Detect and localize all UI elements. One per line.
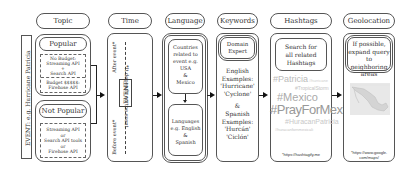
domain-expert-box: Domain Expert — [220, 37, 255, 59]
header-topic: Topic — [36, 13, 90, 29]
english-line: English — [217, 67, 258, 75]
popular-options: No Budget: Streaming API + Search API Bu… — [40, 54, 86, 93]
arrow-right-icon — [100, 92, 105, 98]
languages-line: Languages — [169, 118, 202, 125]
search-line: Hashtags — [276, 59, 326, 67]
languages-box: Languages e.g. English & Spanish — [168, 104, 203, 156]
popular-label: Popular — [39, 37, 87, 51]
search-api: Search API — [41, 71, 85, 76]
hashtagify-source: *https://hashtagify.me — [271, 152, 331, 159]
not-popular-options: Streaming API or Search API tools or Fir… — [40, 123, 86, 158]
arrow-right-icon — [263, 92, 268, 98]
countries-line: Countries — [169, 44, 202, 51]
not-popular-label: Not Popular — [39, 104, 87, 118]
popular-group: Popular No Budget: Streaming API + Searc… — [35, 34, 91, 96]
arrow-down-icon — [183, 100, 187, 103]
header-keywords: Keywords — [217, 13, 258, 29]
source-line: com/maps/ — [344, 155, 394, 160]
spanish-examples: Spanish Examples: 'Hurcán' 'Ciclón' — [217, 110, 258, 140]
before-event-label: Before event* — [111, 117, 118, 157]
english-line: 'Cyclone' — [217, 90, 258, 98]
spanish-line: Examples: — [217, 118, 258, 126]
not-popular-group: Not Popular Streaming API or Search API … — [35, 100, 91, 162]
time-footnote: *It depends on the event — [124, 56, 131, 136]
divider — [41, 77, 85, 78]
spanish-line: 'Hurcán' — [217, 125, 258, 133]
ampersand: & — [217, 102, 258, 110]
hashtag-patricia: #Patricia — [273, 74, 308, 84]
spanish-line: Spanish — [217, 110, 258, 118]
countries-line: event e.g. — [169, 58, 202, 65]
languages-line: Spanish — [169, 139, 202, 146]
countries-line: & — [169, 72, 202, 79]
time-box: EVENT After event* Before event* *It dep… — [107, 33, 153, 162]
google-maps-source: *https://www.google. com/maps/ — [344, 150, 394, 160]
event-label-box: EVENT: e.g. Hurricane Patricia — [21, 35, 32, 159]
after-event-label: After event* — [111, 37, 118, 77]
search-line: Search for — [276, 43, 326, 51]
countries-box: Countries related to event e.g. USA & Me… — [168, 39, 203, 94]
no-budget-option: No Budget: Streaming API + Search API — [41, 56, 85, 76]
english-line: Examples: — [217, 75, 258, 83]
note-line: expand query — [348, 48, 390, 56]
hashtag-cloud: #Patricia #hurricane #TropicalStorm #Mex… — [271, 74, 331, 134]
hashtag-huracan-small: #huracanfornmexicali — [275, 127, 313, 132]
expand-query-box: If possible, expand query to neighboring… — [347, 37, 391, 71]
languages-line: & — [169, 132, 202, 139]
map-image — [350, 83, 390, 115]
hashtag-huracanpatricia: #HuracanPatricia — [285, 118, 339, 125]
event-label: EVENT: e.g. Hurricane Patricia — [25, 36, 32, 160]
countries-line: USA — [169, 65, 202, 72]
streaming-api: Streaming API — [41, 127, 85, 133]
hashtag-hurricane: #hurricane — [309, 78, 328, 83]
language-box: Countries related to event e.g. USA & Me… — [164, 35, 206, 161]
budget-option: Budget $$$$$: Firehose API — [41, 80, 85, 90]
geolocation-box: If possible, expand query to neighboring… — [343, 33, 395, 162]
header-time: Time — [108, 13, 152, 29]
spanish-line: 'Ciclón' — [217, 133, 258, 141]
arrow-right-icon — [337, 92, 342, 98]
arrow-right-icon — [157, 92, 162, 98]
search-line: all related — [276, 51, 326, 59]
header-geolocation: Geolocation — [343, 13, 395, 29]
languages-line: e.g. English — [169, 125, 202, 132]
header-hashtags: Hashtags — [270, 13, 332, 29]
english-examples: English Examples: 'Hurricane' 'Cyclone' — [217, 67, 258, 97]
firehose-api: Firehose API — [41, 149, 85, 155]
arrow-right-icon — [210, 92, 215, 98]
expert-line: Expert — [221, 48, 254, 55]
search-hashtags-box: Search for all related Hashtags — [275, 38, 327, 71]
english-line: 'Hurricane' — [217, 82, 258, 90]
hashtags-box: Search for all related Hashtags #Patrici… — [270, 33, 332, 162]
note-line: to neighboring — [348, 55, 390, 70]
header-language: Language — [165, 13, 205, 29]
countries-line: Mexico — [169, 79, 202, 86]
note-line: If possible, — [348, 40, 390, 48]
countries-line: related to — [169, 51, 202, 58]
firehose-api: Firehose API — [41, 85, 85, 90]
map-mexico-icon — [350, 83, 390, 115]
search-api-tools: Search API tools — [41, 138, 85, 144]
note-line: areas — [348, 70, 390, 78]
expert-line: Domain — [221, 41, 254, 48]
keywords-box: Domain Expert English Examples: 'Hurrica… — [216, 33, 259, 162]
